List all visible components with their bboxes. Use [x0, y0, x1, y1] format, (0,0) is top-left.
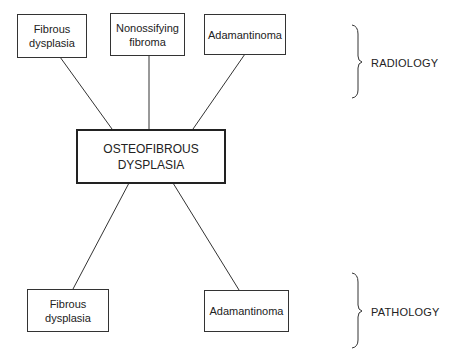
connector-radiology-adamantinoma [193, 54, 245, 129]
radiology-label: RADIOLOGY [371, 57, 438, 69]
box-text-line2: dysplasia [45, 311, 91, 325]
box-text-line1: Adamantinoma [210, 304, 284, 318]
connector-pathology-adamantinoma [173, 183, 239, 290]
center-text-line1: OSTEOFIBROUS [103, 141, 198, 157]
box-text-line2: dysplasia [29, 36, 75, 50]
center-text-line2: DYSPLASIA [103, 157, 198, 173]
radiology-brace [352, 25, 362, 98]
connector-radiology-fibrous [60, 57, 112, 129]
box-text-line1: Fibrous [45, 297, 91, 311]
connector-pathology-fibrous [73, 183, 129, 289]
pathology-brace [352, 273, 362, 348]
pathology-box-fibrous-dysplasia: Fibrous dysplasia [27, 289, 109, 332]
radiology-box-fibrous-dysplasia: Fibrous dysplasia [17, 14, 87, 58]
box-text-line2: fibroma [116, 35, 179, 49]
box-text-line1: Adamantinoma [208, 28, 282, 42]
pathology-label: PATHOLOGY [371, 306, 440, 318]
radiology-box-nonossifying-fibroma: Nonossifying fibroma [110, 13, 185, 56]
pathology-box-adamantinoma: Adamantinoma [204, 290, 289, 332]
box-text-line1: Fibrous [29, 22, 75, 36]
radiology-box-adamantinoma: Adamantinoma [204, 14, 286, 55]
center-box-osteofibrous-dysplasia: OSTEOFIBROUS DYSPLASIA [76, 129, 226, 184]
box-text-line1: Nonossifying [116, 21, 179, 35]
